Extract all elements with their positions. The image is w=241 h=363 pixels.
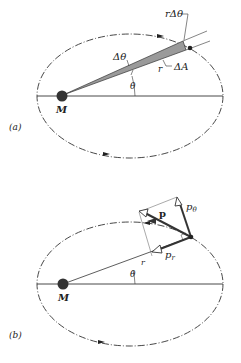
p-theta-arrowhead (175, 197, 182, 206)
construction-line-1 (139, 212, 152, 256)
label-dtheta: Δθ (112, 51, 126, 62)
figure-b-momentum-components: p pθ pr r θ M (b) (0, 180, 241, 363)
dtheta-tick-bottom (131, 70, 133, 75)
label-r-dtheta: rΔθ (165, 8, 183, 19)
label-p: p (159, 208, 166, 219)
planet-dot (189, 235, 194, 240)
planet-dot (188, 46, 193, 51)
orbit-direction-arrow-bottom (103, 152, 110, 156)
dA-leader (163, 60, 172, 66)
swept-area-wedge (63, 41, 186, 95)
mass-label-M: M (57, 292, 70, 303)
label-p-r: pr (165, 249, 175, 262)
dtheta-tick-top (127, 60, 129, 66)
panel-label-b: (b) (9, 330, 22, 340)
extension-line-1 (183, 31, 207, 41)
label-r: r (158, 64, 163, 74)
central-mass (57, 91, 68, 102)
p-r-arrowhead (152, 245, 162, 253)
label-dA: ΔA (173, 61, 188, 72)
central-mass (58, 279, 69, 290)
figure-a-area-sweep: rΔθ Δθ ΔA r θ M (a) (0, 0, 241, 180)
panel-label-a: (a) (9, 122, 22, 132)
label-p-theta: pθ (186, 201, 197, 214)
p-r-vector (160, 237, 191, 249)
mass-label-M: M (55, 104, 68, 115)
figure-a-svg: rΔθ Δθ ΔA r θ M (a) (0, 0, 241, 180)
label-theta: θ (130, 81, 136, 91)
figure-b-svg: p pθ pr r θ M (b) (0, 180, 241, 363)
label-r: r (141, 258, 146, 267)
label-theta: θ (130, 269, 136, 279)
